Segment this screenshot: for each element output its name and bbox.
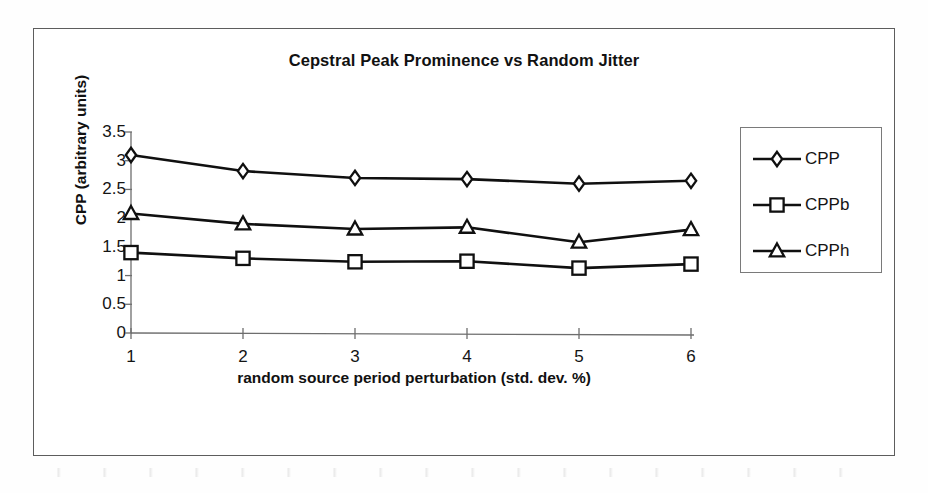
diamond-marker-icon	[751, 148, 803, 170]
legend-label: CPPh	[805, 241, 849, 261]
triangle-marker-icon	[751, 240, 803, 262]
legend-item-cpph[interactable]: CPPh	[751, 240, 849, 262]
legend-label: CPP	[805, 149, 840, 169]
axes-layer	[125, 132, 694, 339]
data-point-marker	[236, 252, 249, 265]
data-point-marker	[460, 255, 473, 268]
figure-frame: Cepstral Peak Prominence vs Random Jitte…	[33, 28, 895, 456]
data-point-marker	[462, 172, 472, 186]
data-point-marker	[684, 222, 698, 235]
series-cpp	[126, 148, 696, 191]
data-point-marker	[686, 174, 696, 188]
data-point-marker	[348, 255, 361, 268]
data-point-marker	[238, 164, 248, 178]
legend-label: CPPb	[805, 195, 849, 215]
chart-legend: CPPCPPbCPPh	[740, 127, 882, 273]
figure-page: Cepstral Peak Prominence vs Random Jitte…	[0, 0, 928, 493]
legend-item-cpp[interactable]: CPP	[751, 148, 840, 170]
data-point-marker	[684, 257, 697, 270]
series-layer	[124, 148, 698, 275]
series-cppb	[124, 246, 697, 275]
data-point-marker	[350, 171, 360, 185]
data-point-marker	[572, 261, 585, 274]
data-point-marker	[124, 206, 138, 219]
scan-artifact	[40, 468, 870, 477]
data-point-marker	[124, 246, 137, 259]
data-point-marker	[574, 176, 584, 190]
series-cpph	[124, 206, 698, 248]
data-point-marker	[126, 148, 136, 162]
legend-item-cppb[interactable]: CPPb	[751, 194, 849, 216]
x-axis-title: random source period perturbation (std. …	[94, 369, 734, 387]
square-marker-icon	[751, 194, 803, 216]
plot-area: CPP (arbitrary units) 3.532.521.510.50 1…	[34, 29, 894, 455]
